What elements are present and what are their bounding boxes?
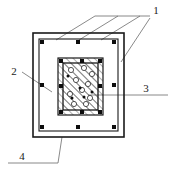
callout-4-label: 4 [19,150,25,162]
core-void-3 [89,71,94,76]
core-aggregate-dot-3 [91,91,94,94]
callout-2-label: 2 [11,65,17,77]
core-void-9 [71,101,76,106]
inner-rebar-5 [98,84,102,88]
core-aggregate-dot-4 [71,97,74,100]
outer-rebar-7 [76,125,80,129]
inner-rebar-4 [59,84,63,88]
diagram-canvas: 1234 [0,0,171,177]
outer-rebar-4 [40,83,44,87]
core-aggregate-dot-5 [83,96,86,99]
core-void-2 [81,65,86,70]
outer-rebar-5 [112,83,116,87]
inner-rebar-1 [59,59,63,63]
callout-3-label: 3 [143,82,149,94]
inner-rebar-6 [59,110,63,114]
callout-1-label: 1 [153,4,159,16]
cross-section-diagram: 1234 [0,0,171,177]
outer-rebar-2 [76,40,80,44]
outer-rebar-6 [40,125,44,129]
outer-rebar-1 [40,40,44,44]
inner-rebar-7 [80,110,84,114]
callout-1-leader-2 [79,16,118,40]
outer-rebar-8 [112,125,116,129]
core-void-1 [68,67,73,72]
core-void-4 [73,77,78,82]
core-group [63,63,98,110]
core-void-5 [85,81,90,86]
core-void-10 [83,101,88,106]
callout-1-leader-1 [56,16,95,40]
core-void-6 [67,91,72,96]
inner-rebar-3 [98,59,102,63]
core-aggregate-dot-2 [79,87,82,90]
outer-rebar-3 [112,40,116,44]
core-void-8 [87,95,92,100]
callout-2-leader-0 [22,72,52,92]
callout-4-leader-1 [58,137,62,163]
core-aggregate-dot-1 [67,75,70,78]
inner-rebar-8 [98,110,102,114]
inner-rebar-2 [80,59,84,63]
callout-1-leader-3 [101,16,140,40]
